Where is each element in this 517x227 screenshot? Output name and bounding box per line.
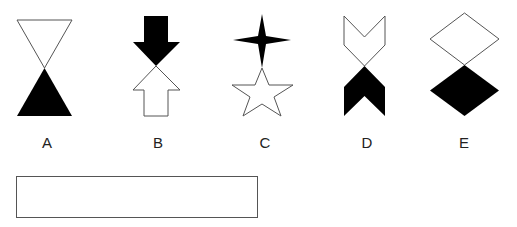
option-d-figure xyxy=(344,16,385,116)
option-label-e: E xyxy=(449,134,479,151)
white-diamond-icon xyxy=(430,13,499,65)
option-label-c: C xyxy=(250,134,280,151)
black-chevron-icon xyxy=(344,66,385,116)
option-e-figure xyxy=(430,13,499,116)
white-up-arrow-icon xyxy=(133,66,180,116)
option-a-figure xyxy=(17,20,72,116)
option-label-d: D xyxy=(352,134,382,151)
white-chevron-icon xyxy=(344,16,385,66)
black-four-point-star-icon xyxy=(233,14,291,68)
white-triangle-icon xyxy=(17,20,72,68)
option-label-b: B xyxy=(143,134,173,151)
black-triangle-icon xyxy=(17,68,72,116)
answer-box[interactable] xyxy=(16,176,258,218)
option-c-figure xyxy=(232,14,293,116)
white-five-point-star-icon xyxy=(232,68,293,116)
black-down-arrow-icon xyxy=(133,16,180,66)
black-diamond-icon xyxy=(430,65,499,116)
option-label-a: A xyxy=(32,134,62,151)
option-b-figure xyxy=(133,16,180,116)
